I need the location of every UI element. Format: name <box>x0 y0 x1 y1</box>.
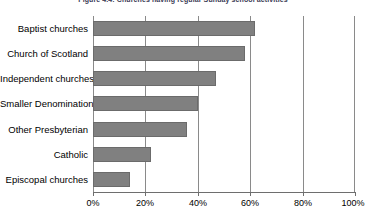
bar-chart-figure: Figure 4.4: Churches having regular Sund… <box>0 0 366 219</box>
category-label-episcopal-churches: Episcopal churches <box>0 167 88 192</box>
bar-row: Baptist churches <box>0 16 366 41</box>
category-label-baptist-churches: Baptist churches <box>0 16 88 41</box>
x-tick-label-80: 80% <box>283 198 323 208</box>
x-tick-20 <box>145 192 146 196</box>
x-tick-label-40: 40% <box>178 198 218 208</box>
x-tick-60 <box>250 192 251 196</box>
category-label-independent-churches: Independent churches <box>0 66 88 91</box>
bar-row: Church of Scotland <box>0 41 366 66</box>
x-tick-label-20: 20% <box>125 198 165 208</box>
x-axis-line <box>93 192 356 193</box>
category-label-church-of-scotland: Church of Scotland <box>0 41 88 66</box>
bar-row: Smaller Denominations <box>0 91 366 116</box>
category-label-catholic: Catholic <box>0 142 88 167</box>
bar-row: Episcopal churches <box>0 167 366 192</box>
bar-catholic <box>93 147 151 162</box>
x-tick-80 <box>303 192 304 196</box>
x-tick-0 <box>93 192 94 196</box>
x-tick-40 <box>198 192 199 196</box>
bar-row: Catholic <box>0 142 366 167</box>
x-tick-label-60: 60% <box>230 198 270 208</box>
x-tick-label-100: 100% <box>333 198 366 208</box>
bar-row: Independent churches <box>0 66 366 91</box>
category-label-smaller-denominations: Smaller Denominations <box>0 91 88 116</box>
x-tick-label-0: 0% <box>73 198 113 208</box>
x-tick-100 <box>355 192 356 196</box>
bar-baptist-churches <box>93 21 255 36</box>
category-label-other-presbyterian: Other Presbyterian <box>0 117 88 142</box>
chart-title: Figure 4.4: Churches having regular Sund… <box>0 0 366 4</box>
bar-other-presbyterian <box>93 122 187 137</box>
bar-smaller-denominations <box>93 96 198 111</box>
bar-independent-churches <box>93 71 216 86</box>
bar-episcopal-churches <box>93 172 130 187</box>
bar-church-of-scotland <box>93 46 245 61</box>
bar-row: Other Presbyterian <box>0 117 366 142</box>
